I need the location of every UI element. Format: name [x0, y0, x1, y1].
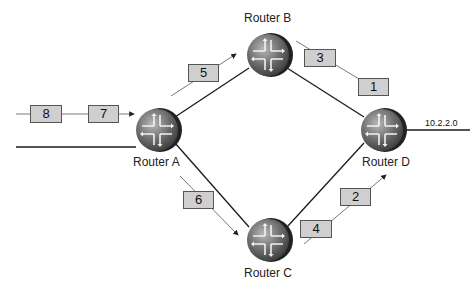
router-b-icon: [247, 33, 293, 77]
network-diagram: [0, 0, 472, 294]
router-a-icon: [136, 108, 182, 152]
packet-5: 5: [188, 64, 219, 82]
router-c-icon: [247, 218, 293, 262]
links: [16, 68, 470, 227]
packet-2: 2: [340, 188, 371, 206]
router-d-label: Router D: [362, 155, 410, 169]
packet-1: 1: [358, 78, 389, 96]
packet-6: 6: [183, 191, 214, 209]
packet-7: 7: [88, 105, 119, 123]
link-a-c: [175, 143, 249, 227]
router-b-label: Router B: [244, 11, 291, 25]
network-label: 10.2.2.0: [425, 118, 458, 128]
packet-4: 4: [300, 220, 332, 238]
packet-8: 8: [30, 105, 62, 123]
router-c-label: Router C: [244, 266, 292, 280]
router-d-icon: [361, 108, 407, 152]
link-c-d: [287, 143, 364, 227]
packet-3: 3: [304, 49, 336, 67]
router-a-label: Router A: [133, 155, 180, 169]
